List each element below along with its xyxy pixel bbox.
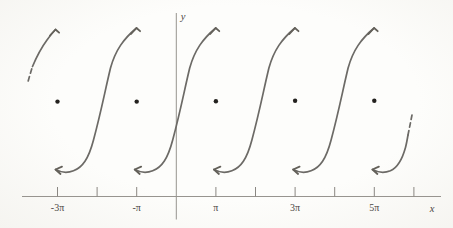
curve-branch-3pi-5pi [293, 28, 374, 172]
y-axis-label: y [180, 11, 186, 22]
curve-branch-pi-3pi [214, 28, 295, 172]
curve-branch-negpi-pi [135, 28, 216, 172]
discontinuity-dot-negpi [135, 99, 139, 103]
tick-label: -π [133, 202, 141, 213]
curve-branch-partial-right-dashed [408, 113, 412, 135]
curve-branch-partial-left-dashed [28, 67, 32, 82]
discontinuity-dot-3pi [293, 99, 297, 103]
tick-label: -3π [51, 202, 64, 213]
curve-branches [28, 28, 412, 174]
function-graph-figure: -3π -π π 3π 5π x y [0, 0, 453, 228]
axes [22, 13, 441, 220]
x-axis-ticks [58, 187, 414, 197]
x-axis-tick-labels: -3π -π π 3π 5π [51, 202, 380, 213]
discontinuity-dot-neg3pi [55, 99, 59, 103]
discontinuity-dot-pi [214, 99, 218, 103]
tick-label: 5π [369, 202, 379, 213]
tick-label: π [213, 202, 218, 213]
graph-canvas: -3π -π π 3π 5π x y [0, 0, 453, 228]
discontinuity-dot-5pi [372, 99, 376, 103]
curve-branch-neg3pi-negpi [56, 28, 137, 172]
curve-branch-partial-left [33, 30, 56, 67]
up-arrowhead-icon [50, 30, 59, 36]
tick-label: 3π [290, 202, 300, 213]
x-axis-label: x [429, 203, 435, 214]
